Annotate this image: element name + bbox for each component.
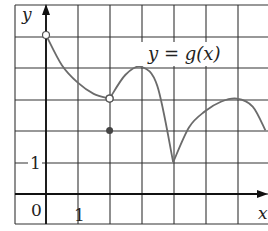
x-axis-arrow-icon [257,190,268,198]
function-label: y = g(x) [147,43,220,64]
filled-dot-marker [106,127,113,134]
open-circle-marker [106,95,113,102]
grid [15,5,268,224]
curve-right-arc [173,98,265,162]
origin-label: 0 [31,200,42,220]
y-axis-arrow-icon [42,4,50,15]
x-axis-label: x [258,203,268,223]
x-tick-label-1: 1 [74,205,85,225]
curve-rising-then-falling-branch [110,66,174,162]
open-circle-marker [43,32,50,39]
y-axis-label: y [21,4,32,24]
y-tick-label-1: 1 [30,153,41,173]
graph-of-g: y x 0 1 1 y = g(x) [0,0,268,231]
